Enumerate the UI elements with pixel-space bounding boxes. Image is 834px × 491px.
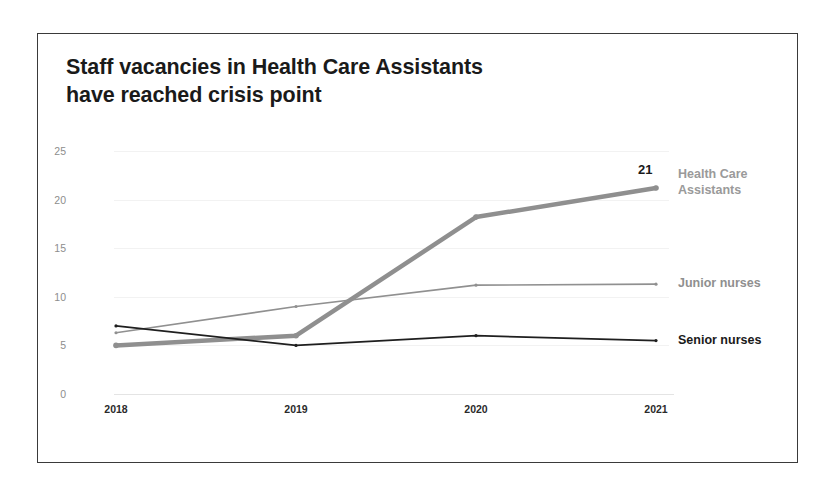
plot-area: 0510152025 2018201920202021 Health Care … bbox=[66, 118, 771, 408]
y-tick-label: 25 bbox=[54, 145, 66, 157]
data-point bbox=[114, 324, 117, 327]
data-point bbox=[293, 333, 299, 339]
series-line-0 bbox=[116, 188, 656, 345]
data-point bbox=[473, 214, 479, 220]
data-point bbox=[114, 331, 117, 334]
data-point bbox=[474, 334, 477, 337]
data-point bbox=[654, 339, 657, 342]
chart-figure: Staff vacancies in Health Care Assistant… bbox=[37, 33, 798, 463]
data-point bbox=[294, 305, 297, 308]
data-point bbox=[654, 283, 657, 286]
page-title: Staff vacancies in Health Care Assistant… bbox=[66, 54, 686, 109]
series-label-2: Senior nurses bbox=[678, 333, 761, 349]
title-line-1: Staff vacancies in Health Care Assistant… bbox=[66, 54, 686, 82]
y-tick-label: 20 bbox=[54, 194, 66, 206]
data-point bbox=[113, 343, 119, 349]
series-label-0: Health Care Assistants bbox=[678, 167, 747, 198]
data-point bbox=[474, 284, 477, 287]
y-tick-label: 15 bbox=[54, 242, 66, 254]
data-point bbox=[653, 185, 659, 191]
y-tick-label: 10 bbox=[54, 291, 66, 303]
series-line-1 bbox=[116, 284, 656, 333]
title-line-2: have reached crisis point bbox=[66, 82, 686, 110]
series-lines bbox=[66, 118, 771, 408]
hca-endpoint-value: 21 bbox=[638, 162, 652, 177]
data-point bbox=[294, 344, 297, 347]
series-label-1: Junior nurses bbox=[678, 276, 761, 292]
